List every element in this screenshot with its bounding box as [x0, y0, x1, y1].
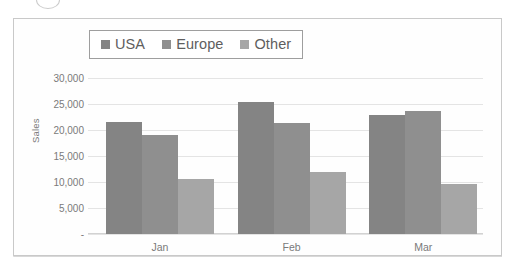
y-tick-label: 15,000: [28, 151, 84, 162]
y-tick-label: -: [28, 229, 84, 240]
bar-usa-feb[interactable]: [238, 102, 274, 234]
chart-container: USA Europe Other Sales 30,00025,00020,00…: [13, 18, 502, 256]
bar-other-jan[interactable]: [178, 179, 214, 234]
x-tick-label-jan: Jan: [152, 241, 169, 253]
y-axis-tick-labels: 30,00025,00020,00015,00010,0005,000-: [22, 78, 84, 234]
bar-group-mar: [369, 78, 477, 234]
legend-label-europe: Europe: [176, 37, 223, 52]
bar-group-jan: [106, 78, 214, 234]
legend-label-usa: USA: [115, 37, 145, 52]
bar-europe-feb[interactable]: [274, 123, 310, 234]
y-tick-label: 30,000: [28, 73, 84, 84]
x-tick-label-mar: Mar: [414, 241, 432, 253]
bar-other-mar[interactable]: [441, 184, 477, 234]
bar-usa-mar[interactable]: [369, 115, 405, 234]
legend-swatch-other: [240, 40, 249, 49]
legend-swatch-europe: [162, 40, 171, 49]
y-tick-label: 5,000: [28, 203, 84, 214]
legend-item-usa[interactable]: USA: [101, 37, 145, 52]
gridline: [88, 234, 483, 235]
chart-legend: USA Europe Other: [89, 30, 303, 59]
legend-item-europe[interactable]: Europe: [162, 37, 223, 52]
bar-europe-mar[interactable]: [405, 111, 441, 234]
plot-area: [88, 78, 483, 234]
bar-group-feb: [238, 78, 346, 234]
x-tick-label-feb: Feb: [283, 241, 301, 253]
cropped-glyph-artifact: [36, 0, 60, 9]
legend-label-other: Other: [254, 37, 291, 52]
y-tick-label: 25,000: [28, 99, 84, 110]
bar-other-feb[interactable]: [310, 172, 346, 234]
x-axis-tick-labels: JanFebMar: [88, 241, 483, 257]
legend-swatch-usa: [101, 40, 110, 49]
chart-screenshot: USA Europe Other Sales 30,00025,00020,00…: [0, 0, 514, 269]
bar-usa-jan[interactable]: [106, 122, 142, 234]
y-tick-label: 10,000: [28, 177, 84, 188]
y-tick-label: 20,000: [28, 125, 84, 136]
bar-europe-jan[interactable]: [142, 135, 178, 234]
legend-item-other[interactable]: Other: [240, 37, 291, 52]
